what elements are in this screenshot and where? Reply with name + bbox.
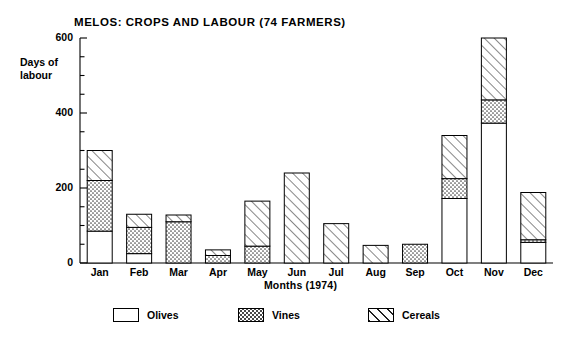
bar-jun <box>284 173 309 263</box>
bar-segment-cereals <box>521 193 546 240</box>
legend-label: Olives <box>147 309 179 321</box>
bar-segment-vines <box>403 244 428 263</box>
bar-segment-cereals <box>127 214 152 227</box>
legend-swatch-olives <box>113 308 139 322</box>
bar-oct <box>442 136 467 264</box>
x-axis-tick-label: Mar <box>159 266 199 278</box>
x-axis-tick-label: Aug <box>356 266 396 278</box>
bar-segment-cereals <box>87 151 112 181</box>
bar-segment-olives <box>521 242 546 263</box>
bar-dec <box>521 193 546 264</box>
bar-segment-vines <box>245 246 270 263</box>
x-axis-tick-label: Jun <box>277 266 317 278</box>
bar-segment-cereals <box>245 201 270 246</box>
bar-segment-cereals <box>166 215 191 222</box>
bar-segment-cereals <box>324 224 349 263</box>
bar-segment-vines <box>442 179 467 199</box>
bar-jul <box>324 224 349 263</box>
y-axis-tick-label: 600 <box>41 31 73 43</box>
bar-nov <box>481 38 506 263</box>
legend-label: Cereals <box>402 309 440 321</box>
y-axis-label-line-1: Days of <box>20 56 80 69</box>
bar-jan <box>87 151 112 264</box>
chart-legend: OlivesVinesCereals <box>0 300 577 330</box>
x-axis-tick-label: Apr <box>198 266 238 278</box>
bar-segment-olives <box>127 254 152 263</box>
bar-segment-vines <box>481 100 506 123</box>
legend-swatch-cereals <box>368 308 394 322</box>
bar-sep <box>403 244 428 263</box>
x-axis-tick-label: Sep <box>395 266 435 278</box>
legend-item-olives: Olives <box>113 308 179 322</box>
x-axis-label-text: Months (1974) <box>264 279 337 291</box>
bar-segment-cereals <box>363 245 388 263</box>
bar-segment-olives <box>442 199 467 264</box>
legend-item-vines: Vines <box>238 308 300 322</box>
bar-feb <box>127 214 152 263</box>
chart-title: MELOS: CROPS AND LABOUR (74 FARMERS) <box>74 16 346 28</box>
legend-item-cereals: Cereals <box>368 308 440 322</box>
bar-apr <box>205 250 230 263</box>
x-axis-tick-label: May <box>237 266 277 278</box>
x-axis-tick-label: Jan <box>80 266 120 278</box>
legend-swatch-vines <box>238 308 264 322</box>
bar-may <box>245 201 270 263</box>
bar-segment-vines <box>166 222 191 263</box>
x-axis-tick-label: Oct <box>434 266 474 278</box>
chart-figure: MELOS: CROPS AND LABOUR (74 FARMERS) Day… <box>0 0 577 341</box>
x-axis-tick-label: Feb <box>119 266 159 278</box>
bar-segment-vines <box>205 256 230 264</box>
y-axis-label-line-2: labour <box>20 69 80 82</box>
y-axis-tick-label: 0 <box>41 256 73 268</box>
y-axis-tick-label: 200 <box>41 181 73 193</box>
bar-segment-cereals <box>481 38 506 100</box>
x-axis-tick-label: Nov <box>474 266 514 278</box>
bar-aug <box>363 245 388 263</box>
y-axis-tick-label: 400 <box>41 106 73 118</box>
bar-segment-olives <box>87 231 112 263</box>
y-axis-label: Days of labour <box>20 56 80 81</box>
bar-segment-cereals <box>442 136 467 179</box>
bar-segment-vines <box>87 181 112 232</box>
bar-segment-cereals <box>284 173 309 263</box>
x-axis-label: Months (1974) <box>0 279 577 291</box>
bar-segment-cereals <box>205 250 230 256</box>
bar-mar <box>166 215 191 263</box>
x-axis-tick-label: Jul <box>316 266 356 278</box>
bar-segment-olives <box>481 123 506 263</box>
bar-segment-vines <box>127 227 152 253</box>
legend-label: Vines <box>272 309 300 321</box>
x-axis-tick-label: Dec <box>513 266 553 278</box>
